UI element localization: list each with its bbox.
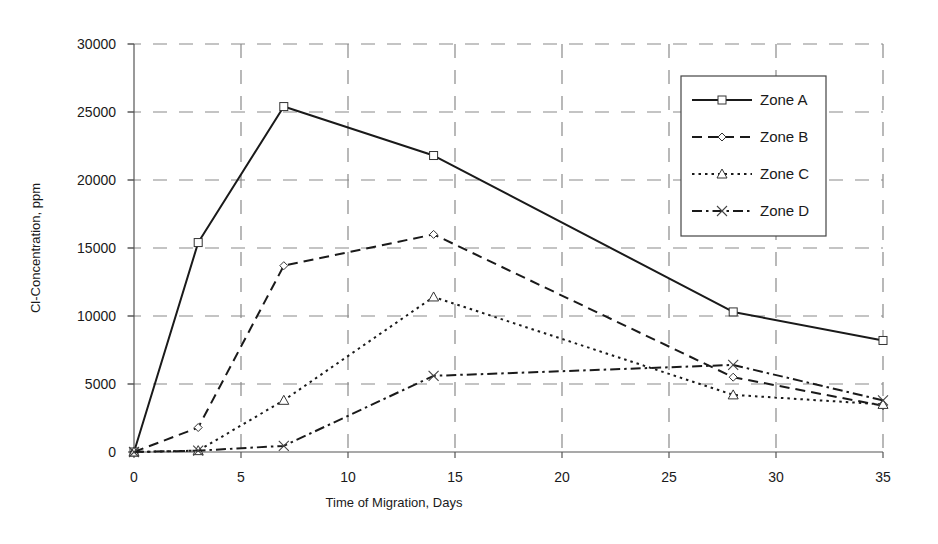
y-tick-label: 30000 <box>77 36 116 52</box>
square-marker-icon <box>729 308 737 316</box>
series-line <box>134 365 883 452</box>
series-line <box>134 297 883 452</box>
series-line <box>134 234 883 452</box>
series-zone-b <box>130 230 887 456</box>
legend-label: Zone B <box>760 128 808 145</box>
triangle-marker-icon <box>429 292 439 301</box>
line-chart: 050001000015000200002500030000 051015202… <box>0 0 938 544</box>
y-tick-label: 0 <box>108 444 116 460</box>
x-tick-label: 20 <box>554 469 570 485</box>
diamond-marker-icon <box>280 262 288 270</box>
x-tick-label: 35 <box>875 469 891 485</box>
y-tick-label: 5000 <box>85 376 116 392</box>
square-marker-icon <box>280 103 288 111</box>
diamond-marker-icon <box>430 230 438 238</box>
triangle-marker-icon <box>279 395 289 404</box>
y-axis-title: Cl-Concentration, ppm <box>28 183 43 313</box>
square-marker-icon <box>718 96 726 104</box>
y-tick-label: 25000 <box>77 104 116 120</box>
x-tick-label: 25 <box>661 469 677 485</box>
series-zone-d <box>129 360 888 457</box>
legend-label: Zone D <box>760 202 809 219</box>
diamond-marker-icon <box>194 424 202 432</box>
legend: Zone AZone BZone CZone D <box>681 76 826 236</box>
y-tick-label: 15000 <box>77 240 116 256</box>
x-axis-tick-labels: 05101520253035 <box>130 469 891 485</box>
square-marker-icon <box>879 336 887 344</box>
square-marker-icon <box>430 152 438 160</box>
x-axis-title: Time of Migration, Days <box>326 495 463 510</box>
x-tick-label: 0 <box>130 469 138 485</box>
x-tick-label: 5 <box>237 469 245 485</box>
legend-label: Zone A <box>760 91 808 108</box>
x-tick-label: 30 <box>768 469 784 485</box>
x-tick-label: 15 <box>447 469 463 485</box>
diamond-marker-icon <box>729 373 737 381</box>
legend-label: Zone C <box>760 165 809 182</box>
y-axis-tick-labels: 050001000015000200002500030000 <box>77 36 116 460</box>
x-tick-label: 10 <box>340 469 356 485</box>
y-tick-label: 20000 <box>77 172 116 188</box>
square-marker-icon <box>194 239 202 247</box>
x-marker-icon <box>429 371 439 381</box>
y-tick-label: 10000 <box>77 308 116 324</box>
